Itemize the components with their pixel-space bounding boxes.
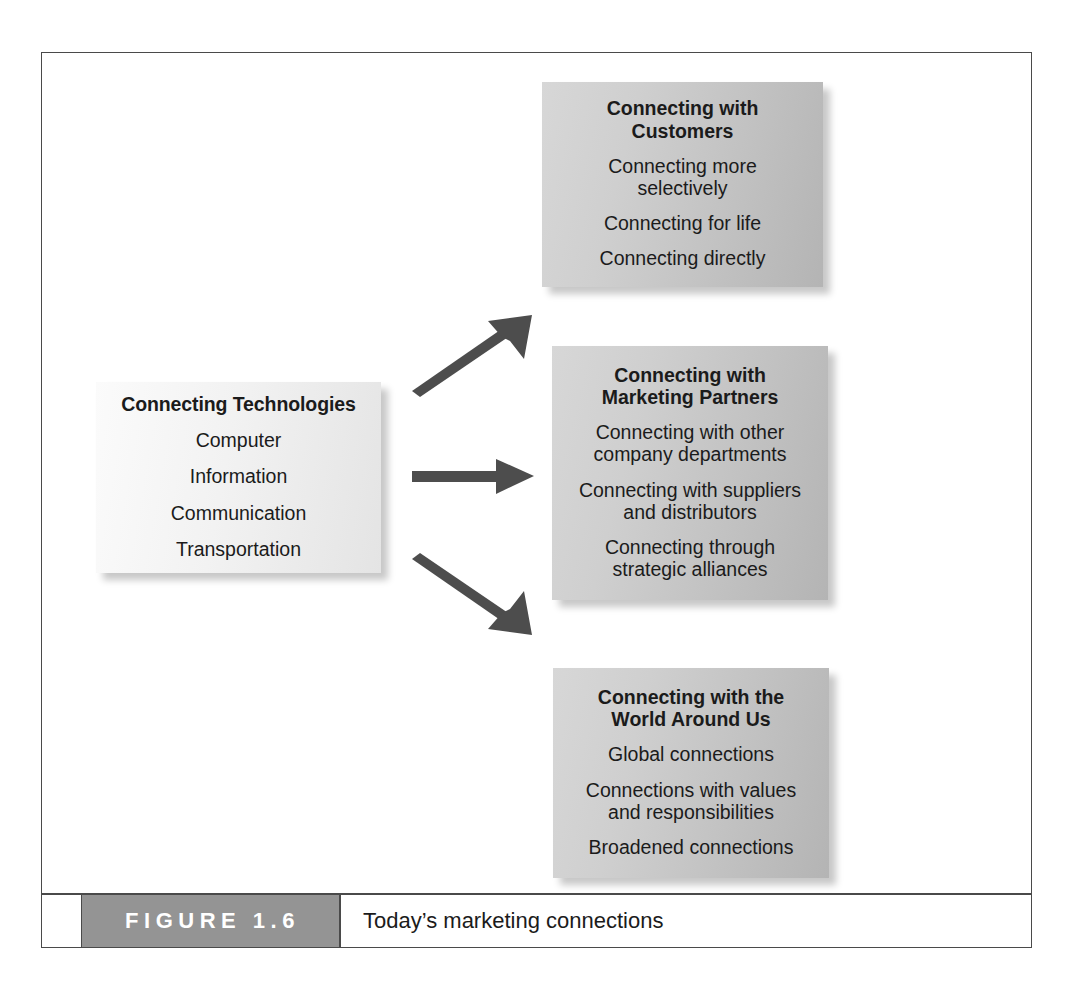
panel-content: Connecting with the World Around Us Glob… xyxy=(553,668,829,878)
arrow-to-marketing-partners-icon xyxy=(410,455,540,499)
panel-content: Connecting with Marketing Partners Conne… xyxy=(552,346,828,600)
panel-content: Connecting with Customers Connecting mor… xyxy=(542,82,823,287)
panel-line-connecting-for-life: Connecting for life xyxy=(604,212,761,234)
panel-line-computer: Computer xyxy=(196,429,282,451)
panel-connecting-with-marketing-partners[interactable]: Connecting with Marketing Partners Conne… xyxy=(552,346,828,600)
panel-line-transportation: Transportation xyxy=(176,538,301,560)
panel-title: Connecting Technologies xyxy=(121,393,356,415)
panel-line-communication: Communication xyxy=(171,502,306,524)
arrow-to-world-around-us-icon xyxy=(410,553,540,643)
panel-line-information: Information xyxy=(190,465,288,487)
panel-line-connecting-through-strategic-alliances: Connecting through strategic alliances xyxy=(605,536,775,580)
panel-line-connecting-directly: Connecting directly xyxy=(600,247,766,269)
caption-bar: FIGURE 1.6 Today’s marketing connections xyxy=(42,895,1031,947)
panel-line-connections-with-values-and-responsibilities: Connections with values and responsibili… xyxy=(586,779,796,823)
figure-number-badge: FIGURE 1.6 xyxy=(82,895,339,947)
figure-frame: Connecting Technologies Computer Informa… xyxy=(41,52,1032,948)
panel-connecting-technologies[interactable]: Connecting Technologies Computer Informa… xyxy=(96,382,381,573)
figure-page: Connecting Technologies Computer Informa… xyxy=(0,0,1069,988)
panel-title: Connecting with Customers xyxy=(607,97,759,141)
diagram-canvas: Connecting Technologies Computer Informa… xyxy=(42,53,1031,893)
figure-caption-text: Today’s marketing connections xyxy=(341,895,1031,947)
panel-line-connecting-with-other-company-departments: Connecting with other company department… xyxy=(594,421,787,465)
arrow-to-customers-icon xyxy=(410,311,540,397)
panel-title: Connecting with Marketing Partners xyxy=(602,364,779,408)
caption-left-spacer xyxy=(42,895,82,947)
panel-line-global-connections: Global connections xyxy=(608,743,774,765)
panel-line-connecting-with-suppliers-and-distributors: Connecting with suppliers and distributo… xyxy=(579,479,801,523)
panel-connecting-with-the-world-around-us[interactable]: Connecting with the World Around Us Glob… xyxy=(553,668,829,878)
panel-line-broadened-connections: Broadened connections xyxy=(589,836,794,858)
panel-content: Connecting Technologies Computer Informa… xyxy=(96,382,381,573)
panel-line-connecting-more-selectively: Connecting more selectively xyxy=(608,155,757,199)
panel-title: Connecting with the World Around Us xyxy=(598,686,784,730)
panel-connecting-with-customers[interactable]: Connecting with Customers Connecting mor… xyxy=(542,82,823,287)
